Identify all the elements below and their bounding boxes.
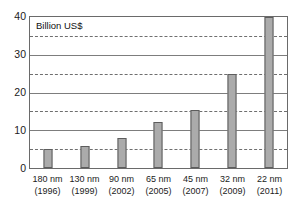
y-tick-label-30: 30: [2, 49, 26, 60]
x-tick-node-22nm: 22 nm: [251, 173, 288, 185]
plot-area: [29, 16, 288, 169]
x-tick-year-2002: (2002): [103, 185, 140, 197]
x-tick-45nm: 45 nm (2007): [177, 173, 214, 197]
bar-45nm: [191, 110, 200, 168]
x-tick-node-180nm: 180 nm: [29, 173, 66, 185]
x-tick-node-90nm: 90 nm: [103, 173, 140, 185]
x-tick-year-2007: (2007): [177, 185, 214, 197]
x-axis-labels: 180 nm (1996) 130 nm (1999) 90 nm (2002)…: [29, 173, 288, 207]
bar-65nm: [154, 122, 163, 168]
y-tick-label-10: 10: [2, 125, 26, 136]
x-tick-year-2009: (2009): [214, 185, 251, 197]
bar-32nm: [227, 74, 236, 168]
bar-slot-180nm: [30, 17, 67, 168]
bar-130nm: [81, 146, 90, 168]
x-tick-130nm: 130 nm (1999): [66, 173, 103, 197]
bar-90nm: [117, 138, 126, 168]
y-tick-label-0: 0: [2, 163, 26, 174]
x-tick-180nm: 180 nm (1996): [29, 173, 66, 197]
bar-180nm: [44, 149, 53, 168]
x-tick-year-2005: (2005): [140, 185, 177, 197]
x-tick-year-2011: (2011): [251, 185, 288, 197]
bar-slot-22nm: [250, 17, 287, 168]
units-annotation: Billion US$: [36, 20, 82, 31]
bar-slot-65nm: [140, 17, 177, 168]
bar-slot-45nm: [177, 17, 214, 168]
bar-chart: 40 30 20 10 0: [0, 0, 294, 209]
bar-slot-130nm: [67, 17, 104, 168]
x-tick-node-32nm: 32 nm: [214, 173, 251, 185]
x-tick-node-45nm: 45 nm: [177, 173, 214, 185]
bars-layer: [30, 17, 287, 168]
bar-slot-32nm: [214, 17, 251, 168]
x-tick-90nm: 90 nm (2002): [103, 173, 140, 197]
x-tick-22nm: 22 nm (2011): [251, 173, 288, 197]
x-tick-year-1996: (1996): [29, 185, 66, 197]
y-axis-labels: 40 30 20 10 0: [0, 0, 26, 209]
x-tick-32nm: 32 nm (2009): [214, 173, 251, 197]
bar-slot-90nm: [103, 17, 140, 168]
x-tick-node-130nm: 130 nm: [66, 173, 103, 185]
y-tick-label-20: 20: [2, 87, 26, 98]
x-tick-node-65nm: 65 nm: [140, 173, 177, 185]
bar-22nm: [264, 17, 273, 168]
y-tick-label-40: 40: [2, 11, 26, 22]
x-tick-year-1999: (1999): [66, 185, 103, 197]
x-tick-65nm: 65 nm (2005): [140, 173, 177, 197]
